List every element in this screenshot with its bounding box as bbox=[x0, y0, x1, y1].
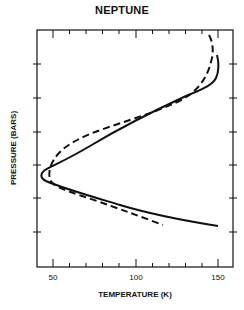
x-ticks-top bbox=[53, 30, 218, 38]
plot-frame bbox=[37, 30, 233, 267]
dashed-temperature-profile bbox=[49, 35, 212, 225]
plot-area bbox=[0, 0, 244, 310]
x-ticks-bottom bbox=[53, 259, 218, 267]
solid-temperature-profile bbox=[41, 55, 218, 226]
